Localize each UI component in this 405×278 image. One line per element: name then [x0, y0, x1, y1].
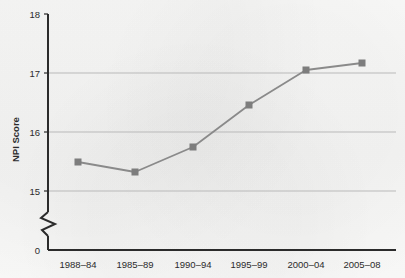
y-tick-label-0: 0: [35, 245, 40, 256]
gridlines-group: [48, 73, 396, 191]
data-point-1988-84[interactable]: [75, 159, 82, 166]
x-tick-label-3: 1990–94: [175, 259, 212, 270]
data-point-2005-08[interactable]: [359, 60, 366, 67]
y-tick-label-16: 16: [29, 127, 40, 138]
y-axis-title: NPI Score: [10, 117, 21, 162]
data-point-1995-99[interactable]: [246, 102, 253, 109]
data-markers-group: [75, 60, 366, 176]
data-point-1990-94[interactable]: [190, 144, 197, 151]
x-tick-label-4: 1995–99: [231, 259, 268, 270]
chart-container: 18 17 16 15 0 NPI Score 1988–84 1985–89 …: [0, 0, 405, 278]
y-tick-label-15: 15: [29, 186, 40, 197]
axis-break-zigzag: [41, 212, 55, 236]
y-tick-label-18: 18: [29, 9, 40, 20]
x-tick-label-2: 1985–89: [117, 259, 154, 270]
x-tick-label-1: 1988–84: [60, 259, 97, 270]
data-point-2000-04[interactable]: [303, 67, 310, 74]
data-point-1985-89[interactable]: [132, 169, 139, 176]
line-chart: 18 17 16 15 0 NPI Score 1988–84 1985–89 …: [0, 0, 405, 278]
data-line-npi-score: [78, 63, 362, 172]
y-tick-label-17: 17: [29, 68, 40, 79]
x-tick-label-5: 2000–04: [288, 259, 325, 270]
x-tick-label-6: 2005–08: [344, 259, 381, 270]
